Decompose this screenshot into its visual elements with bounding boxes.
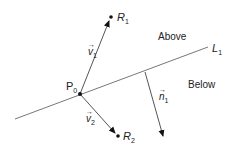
label-l1: L1 <box>212 42 222 56</box>
line-l1 <box>15 47 208 119</box>
point-r1 <box>109 15 113 19</box>
point-r2 <box>116 134 120 138</box>
arrow-v1-icon: → <box>88 41 95 48</box>
label-above: Above <box>158 31 187 42</box>
point-p0 <box>78 92 82 96</box>
arrow-v2-icon: → <box>86 108 93 115</box>
label-below: Below <box>188 79 216 90</box>
vector-n1 <box>145 72 163 136</box>
arrow-n1-icon: → <box>159 86 166 93</box>
label-p0: P0 <box>66 80 77 94</box>
label-r2: R2 <box>123 130 135 144</box>
label-r1: R1 <box>117 11 129 25</box>
line-diagram: R1 v1 → Above L1 P0 Below n1 → v2 → R2 <box>0 0 233 152</box>
